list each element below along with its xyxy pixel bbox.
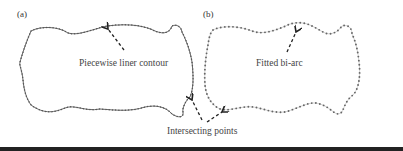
contour-vertex xyxy=(24,45,26,47)
arc-point xyxy=(343,25,345,27)
contour-vertex xyxy=(26,96,28,98)
annotation-fitted-bi-arc: Fitted bi-arc xyxy=(256,58,303,68)
arrow-intersect-b xyxy=(207,112,222,122)
contour-vertex xyxy=(171,113,173,115)
contour-vertex xyxy=(166,109,168,111)
contour-vertex xyxy=(118,109,120,111)
contour-vertex xyxy=(172,25,174,27)
arc-point xyxy=(216,27,218,29)
contour-vertex xyxy=(150,28,152,30)
arc-point xyxy=(224,26,226,28)
arc-point xyxy=(236,26,238,28)
contour-vertex xyxy=(28,36,30,38)
contour-vertex xyxy=(28,101,30,103)
arc-point xyxy=(264,31,266,33)
arc-point xyxy=(330,109,332,111)
contour-vertex xyxy=(48,111,50,113)
contour-vertex xyxy=(134,25,136,27)
contour-vertex xyxy=(131,24,133,26)
arc-point xyxy=(204,85,206,87)
contour-vertex xyxy=(27,39,29,41)
contour-vertex xyxy=(76,107,78,109)
contour-vertex xyxy=(105,109,107,111)
contour-vertex xyxy=(74,33,76,35)
contour-vertex xyxy=(64,108,66,110)
contour-vertex xyxy=(182,111,184,113)
contour-vertex xyxy=(102,108,104,110)
contour-vertex xyxy=(191,62,193,64)
arc-point xyxy=(205,56,207,58)
arc-point xyxy=(205,61,207,63)
contour-vertex xyxy=(128,24,130,26)
arc-point xyxy=(271,111,273,113)
contour-vertex xyxy=(165,32,167,34)
arc-point xyxy=(326,106,328,108)
arc-point xyxy=(231,108,233,110)
arc-point xyxy=(240,27,242,29)
contour-vertex xyxy=(25,42,27,44)
contour-vertex xyxy=(39,27,41,29)
arc-point xyxy=(208,36,210,38)
contour-vertex xyxy=(96,28,98,30)
contour-vertex xyxy=(192,88,194,90)
arc-point xyxy=(291,23,293,25)
contour-vertex xyxy=(92,109,94,111)
contour-vertex xyxy=(173,114,175,116)
arc-point xyxy=(204,69,206,71)
arc-point xyxy=(280,111,282,113)
arc-point xyxy=(344,104,346,106)
contour-vertex xyxy=(108,109,110,111)
contour-vertex xyxy=(144,106,146,108)
contour-vertex xyxy=(125,109,127,111)
contour-vertex xyxy=(153,30,155,32)
contour-vertex xyxy=(36,28,38,30)
fitted-bi-arc-contour xyxy=(205,23,360,114)
contour-vertex xyxy=(182,108,184,110)
arc-point xyxy=(212,103,214,105)
contour-vertex xyxy=(191,91,193,93)
contour-vertex xyxy=(147,27,149,29)
contour-vertex xyxy=(54,110,56,112)
annotation-piecewise-liner-contour: Piecewise liner contour xyxy=(79,58,169,68)
contour-vertex xyxy=(192,78,194,80)
contour-vertex xyxy=(80,107,82,109)
contour-vertex xyxy=(21,55,23,57)
arc-point xyxy=(216,106,218,108)
contour-vertex xyxy=(144,26,146,28)
arc-point xyxy=(358,60,360,62)
arc-point xyxy=(295,107,297,109)
contour-vertex xyxy=(43,27,45,29)
contour-vertex xyxy=(168,30,170,32)
panel-b-label: (b) xyxy=(203,9,214,19)
contour-vertex xyxy=(182,114,184,116)
arrow-intersect-a xyxy=(192,100,202,120)
contour-vertex xyxy=(87,31,89,33)
contour-vertex xyxy=(96,109,98,111)
arc-point xyxy=(299,22,301,24)
arc-point xyxy=(337,29,339,31)
arc-point xyxy=(337,113,339,115)
arc-point xyxy=(210,100,212,102)
contour-vertex xyxy=(59,28,61,30)
arc-point xyxy=(207,44,209,46)
contour-vertex xyxy=(105,25,107,27)
arc-point xyxy=(307,23,309,25)
arc-point xyxy=(342,108,344,110)
contour-vertex xyxy=(115,24,117,26)
arc-point xyxy=(358,80,360,82)
piecewise-linear-contour xyxy=(20,25,193,117)
arc-point xyxy=(351,95,353,97)
contour-vertex xyxy=(163,107,165,109)
contour-vertex xyxy=(73,106,75,108)
arc-point xyxy=(206,48,208,50)
arc-point xyxy=(358,64,360,66)
contour-vertex xyxy=(115,109,117,111)
contour-vertex xyxy=(24,89,26,91)
contour-vertex xyxy=(186,43,188,45)
contour-vertex xyxy=(30,104,32,106)
arc-point xyxy=(356,48,358,50)
arc-point xyxy=(252,30,254,32)
contour-vertex xyxy=(20,58,22,60)
contour-vertex xyxy=(80,32,82,34)
arc-point xyxy=(355,44,357,46)
